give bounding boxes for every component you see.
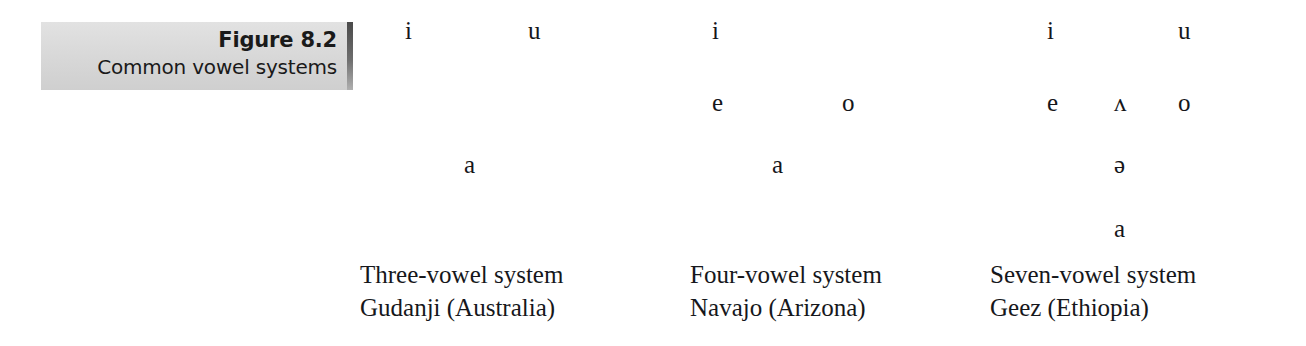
vowel-system-column: iua Three-vowel systemGudanji (Australia… <box>360 0 660 346</box>
caption-line-system: Three-vowel system <box>360 261 563 288</box>
figure-caption-text: Figure 8.2 Common vowel systems <box>47 26 337 81</box>
vowel-system-caption: Seven-vowel systemGeez (Ethiopia) <box>990 258 1290 324</box>
vowel-grid: iua <box>360 0 660 250</box>
caption-line-language: Gudanji (Australia) <box>360 291 660 324</box>
vowel-symbol: o <box>1178 90 1191 115</box>
caption-line-system: Seven-vowel system <box>990 261 1196 288</box>
vowel-symbol: ə <box>1114 152 1125 177</box>
vowel-system-caption: Four-vowel systemNavajo (Arizona) <box>690 258 990 324</box>
figure-title: Common vowel systems <box>47 54 337 81</box>
vowel-symbol: u <box>1178 18 1191 43</box>
vowel-symbol: a <box>464 152 475 177</box>
vowel-symbol: o <box>842 90 855 115</box>
vowel-symbol: ʌ <box>1114 90 1127 115</box>
vowel-system-caption: Three-vowel systemGudanji (Australia) <box>360 258 660 324</box>
vowel-symbol: i <box>712 18 719 43</box>
vowel-symbol: a <box>772 152 783 177</box>
figure-caption-plaque: Figure 8.2 Common vowel systems <box>41 22 353 90</box>
vowel-grid: iueʌoəa <box>990 0 1290 250</box>
figure-page: Figure 8.2 Common vowel systems iua Thre… <box>0 0 1306 346</box>
vowel-grid: ieoa <box>690 0 990 250</box>
vowel-symbol: a <box>1114 216 1125 241</box>
vowel-symbol: u <box>528 18 541 43</box>
vowel-symbol: i <box>405 18 412 43</box>
vowel-symbol: e <box>1047 90 1058 115</box>
caption-line-system: Four-vowel system <box>690 261 882 288</box>
vowel-system-column: ieoa Four-vowel systemNavajo (Arizona) <box>690 0 990 346</box>
vowel-system-column: iueʌoəa Seven-vowel systemGeez (Ethiopia… <box>990 0 1290 346</box>
vowel-symbol: i <box>1047 18 1054 43</box>
caption-line-language: Geez (Ethiopia) <box>990 291 1290 324</box>
figure-number: Figure 8.2 <box>47 26 337 54</box>
vowel-symbol: e <box>712 90 723 115</box>
caption-line-language: Navajo (Arizona) <box>690 291 990 324</box>
